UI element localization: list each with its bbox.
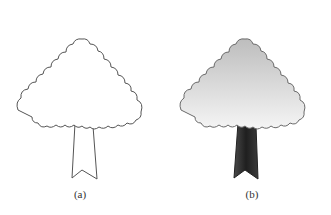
panel-a: (a) [0, 0, 165, 215]
caption-b: (b) [232, 188, 272, 200]
panel-b: (b) [165, 0, 331, 215]
outline-tree-icon [0, 0, 165, 215]
caption-a: (a) [60, 188, 100, 200]
shaded-tree-icon [165, 0, 331, 215]
